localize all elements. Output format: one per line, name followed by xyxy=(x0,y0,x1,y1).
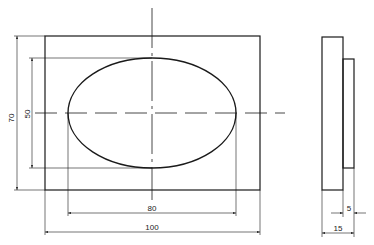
side-boss xyxy=(343,59,354,168)
technical-drawing: 70 50 80 100 5 15 xyxy=(0,0,374,245)
dimension-15: 15 xyxy=(322,224,354,233)
dimension-80: 80 xyxy=(68,204,236,213)
dimension-label-5: 5 xyxy=(347,204,352,213)
side-view xyxy=(322,37,354,190)
dimension-label-50: 50 xyxy=(23,109,32,118)
dimension-label-70: 70 xyxy=(7,113,16,122)
dimension-70: 70 xyxy=(7,36,17,190)
dimension-label-100: 100 xyxy=(145,223,159,232)
dimension-100: 100 xyxy=(45,223,260,232)
front-view xyxy=(35,8,285,200)
dimension-label-80: 80 xyxy=(148,204,157,213)
dimension-label-15: 15 xyxy=(334,224,343,233)
dimension-5: 5 xyxy=(331,204,366,213)
dimension-50: 50 xyxy=(23,58,32,168)
side-body xyxy=(322,37,343,190)
extension-lines xyxy=(14,36,260,235)
